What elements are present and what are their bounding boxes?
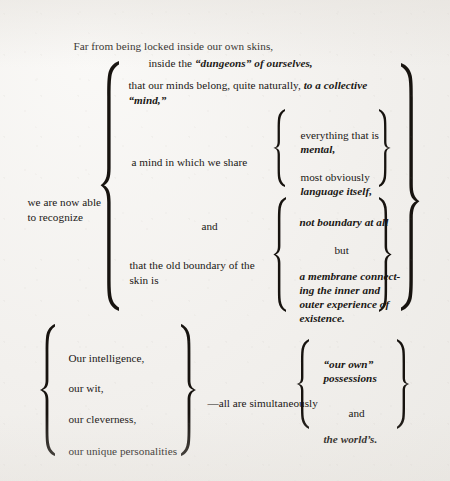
coda-connector: —all are simultaneously [196, 381, 318, 425]
coda-right-item-3: the world’s. [312, 417, 377, 461]
branch-a-line-2: “mind,” [117, 78, 166, 122]
coda-right-right-brace [396, 338, 411, 430]
branch-b-lead: a mind in which we share [120, 140, 247, 184]
branch-c-item-3-line-4-text: existence. [299, 312, 345, 324]
stem-line-2-text: to recognize [27, 211, 83, 223]
coda-left-brace [38, 323, 56, 457]
coda-right-item-1-line-2-text: possessions [323, 372, 376, 384]
branch-a-line-2-text: “mind,” [128, 94, 166, 106]
branch-c-lead-line-2: skin is [118, 258, 159, 302]
branch-c-item-1-text: not boundary at all [299, 216, 388, 228]
coda-left-item-3-text: our cleverness, [68, 413, 136, 425]
coda-connector-text: —all are simultaneously [207, 397, 318, 409]
branch-b-item-2-italic-text: language itself, [300, 185, 372, 197]
coda-right-item-3-text: the world’s. [323, 433, 377, 445]
branch-b-lead-text: a mind in which we share [131, 156, 247, 168]
coda-left-item-4: our unique personalities [57, 429, 177, 473]
conjunction-and-text: and [201, 220, 217, 232]
main-right-brace [400, 62, 422, 312]
branch-a-line-1-italic: to a collective [304, 79, 368, 91]
stem-line-2: to recognize [16, 195, 83, 239]
coda-left-item-2-text: our wit, [68, 382, 103, 394]
page-canvas: Far from being locked inside our own ski… [0, 0, 450, 481]
branch-b-right-brace [378, 108, 392, 188]
branch-c-left-brace [272, 196, 287, 313]
branch-b-left-brace [272, 108, 286, 188]
branch-c-item-3-line-4: existence. [288, 296, 345, 340]
conjunction-and: and [190, 204, 218, 248]
branch-b-item-1-italic-text: mental, [300, 143, 335, 155]
coda-left-item-1-text: Our intelligence, [68, 352, 144, 364]
branch-c-lead-line-2-text: skin is [129, 274, 158, 286]
coda-left-item-4-text: our unique personalities [68, 445, 177, 457]
